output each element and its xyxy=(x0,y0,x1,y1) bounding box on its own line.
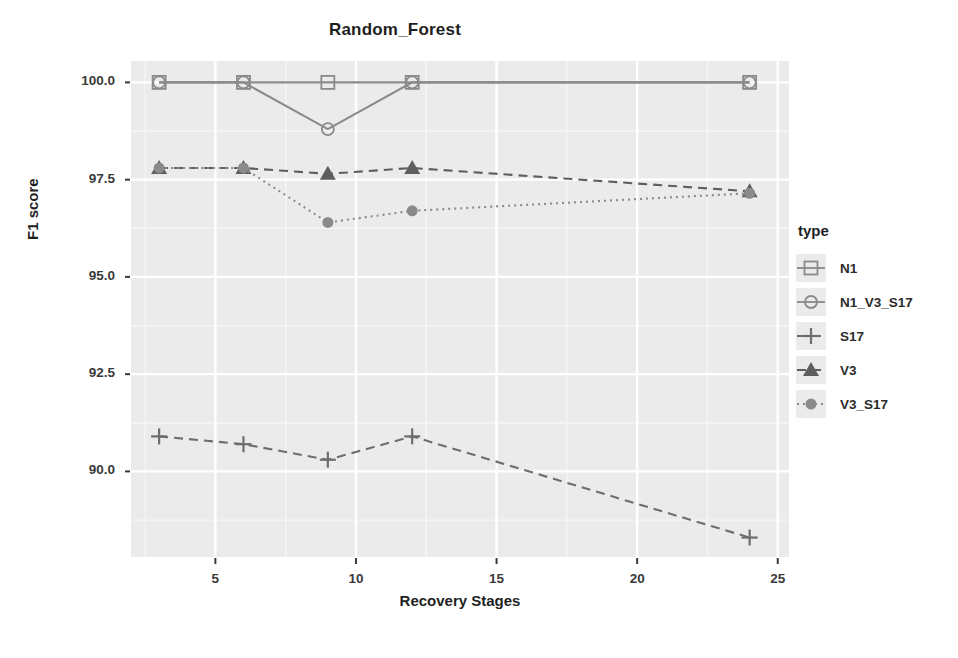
legend-item-label: N1_V3_S17 xyxy=(840,295,913,310)
circle-open-marker-icon xyxy=(796,288,826,316)
circle-filled-marker-icon xyxy=(796,390,826,418)
triangle-filled-marker-icon xyxy=(803,362,819,376)
plus-marker-icon xyxy=(796,322,826,350)
legend-item-label: V3 xyxy=(840,363,857,378)
circle-open-marker-icon-glyph xyxy=(796,288,826,316)
x-tick-label: 25 xyxy=(755,571,801,586)
plot-panel-background xyxy=(131,61,789,557)
y-tick-label: 92.5 xyxy=(55,365,115,380)
data-point-V3_S17 xyxy=(322,217,333,228)
triangle-filled-marker-icon-glyph xyxy=(796,356,826,384)
square-open-marker-icon xyxy=(796,254,826,282)
legend-item-label: V3_S17 xyxy=(840,397,888,412)
legend-item-label: S17 xyxy=(840,329,864,344)
y-tick-label: 100.0 xyxy=(55,73,115,88)
data-point-V3_S17 xyxy=(154,162,165,173)
legend-item-V3[interactable]: V3 xyxy=(796,355,956,385)
chart-page: Random_Forest F1 score Recovery Stages 9… xyxy=(0,0,958,658)
x-tick-label: 5 xyxy=(192,571,238,586)
y-tick-label: 90.0 xyxy=(55,462,115,477)
data-point-V3_S17 xyxy=(407,205,418,216)
data-point-V3_S17 xyxy=(744,188,755,199)
x-tick-label: 20 xyxy=(614,571,660,586)
y-tick-label: 97.5 xyxy=(55,171,115,186)
circle-filled-marker-icon xyxy=(806,399,817,410)
triangle-filled-marker-icon xyxy=(796,356,826,384)
x-tick-label: 10 xyxy=(333,571,379,586)
circle-filled-marker-icon-glyph xyxy=(796,390,826,418)
y-tick-label: 95.0 xyxy=(55,268,115,283)
square-open-marker-icon-glyph xyxy=(796,254,826,282)
legend-item-label: N1 xyxy=(840,261,857,276)
legend-title: type xyxy=(796,222,956,239)
legend-item-N1_V3_S17[interactable]: N1_V3_S17 xyxy=(796,287,956,317)
legend-items: N1N1_V3_S17S17V3V3_S17 xyxy=(796,253,956,419)
x-tick-label: 15 xyxy=(474,571,520,586)
legend-item-S17[interactable]: S17 xyxy=(796,321,956,351)
legend: type N1N1_V3_S17S17V3V3_S17 xyxy=(796,222,956,423)
legend-item-V3_S17[interactable]: V3_S17 xyxy=(796,389,956,419)
plus-marker-icon-glyph xyxy=(796,322,826,350)
data-point-V3_S17 xyxy=(238,162,249,173)
legend-item-N1[interactable]: N1 xyxy=(796,253,956,283)
